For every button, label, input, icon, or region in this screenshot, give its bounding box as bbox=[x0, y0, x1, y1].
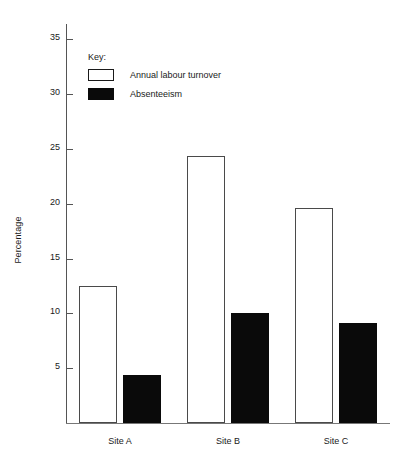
legend-item-annual-labour-turnover: Annual labour turnover bbox=[88, 67, 221, 83]
y-axis-title-label: Percentage bbox=[13, 180, 23, 300]
y-axis-tick-mark bbox=[67, 149, 73, 150]
x-axis-category-label: Site B bbox=[188, 436, 268, 446]
y-axis-tick: 20 bbox=[66, 204, 74, 205]
x-axis-category-label: Site C bbox=[296, 436, 376, 446]
y-axis-tick-mark bbox=[67, 39, 73, 40]
y-axis-tick-label: 15 bbox=[50, 252, 60, 262]
y-axis-tick-mark bbox=[67, 94, 73, 95]
y-axis-line bbox=[66, 24, 67, 424]
bar bbox=[123, 375, 161, 423]
bar bbox=[187, 156, 225, 423]
y-axis-tick-mark bbox=[67, 259, 73, 260]
x-axis-line bbox=[66, 423, 390, 424]
y-axis-tick: 15 bbox=[66, 259, 74, 260]
y-axis-tick-mark bbox=[67, 313, 73, 314]
legend-item-label: Absenteeism bbox=[130, 88, 182, 100]
y-axis-tick-label: 5 bbox=[55, 361, 60, 371]
y-axis-tick-label: 20 bbox=[50, 197, 60, 207]
y-axis-tick-mark bbox=[67, 368, 73, 369]
y-axis-tick: 10 bbox=[66, 313, 74, 314]
y-axis-title: Percentage bbox=[13, 60, 23, 180]
y-axis-tick: 35 bbox=[66, 39, 74, 40]
open-square-swatch-icon bbox=[88, 69, 114, 81]
x-axis-category-label: Site A bbox=[80, 436, 160, 446]
y-axis-tick: 30 bbox=[66, 94, 74, 95]
y-axis-tick-label: 10 bbox=[50, 306, 60, 316]
bar-chart-figure: Percentage 5101520253035 Site ASite BSit… bbox=[0, 0, 410, 472]
y-axis-tick-mark bbox=[67, 204, 73, 205]
legend-item-absenteeism: Absenteeism bbox=[88, 86, 221, 102]
y-axis-tick: 25 bbox=[66, 149, 74, 150]
bar bbox=[339, 323, 377, 423]
y-axis-tick: 5 bbox=[66, 368, 74, 369]
filled-square-swatch-icon bbox=[88, 88, 114, 100]
bar bbox=[79, 286, 117, 423]
y-axis-tick-label: 30 bbox=[50, 87, 60, 97]
y-axis-tick-label: 35 bbox=[50, 32, 60, 42]
legend-item-label: Annual labour turnover bbox=[130, 69, 221, 81]
bar bbox=[295, 208, 333, 423]
y-axis-tick-label: 25 bbox=[50, 142, 60, 152]
chart-legend: Key: Annual labour turnover Absenteeism bbox=[88, 52, 221, 105]
bar bbox=[231, 313, 269, 423]
legend-title: Key: bbox=[88, 52, 221, 62]
